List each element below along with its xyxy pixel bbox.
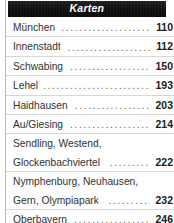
toc-entry[interactable]: München.................................… <box>6 18 174 37</box>
toc-leader-dots: ........................ <box>110 156 150 168</box>
table-of-contents-list: München.................................… <box>6 18 174 223</box>
toc-page-number: 203 <box>153 96 173 114</box>
toc-entry-line: Glockenbachviertel......................… <box>6 153 174 171</box>
toc-page-number: 150 <box>153 57 173 75</box>
toc-entry[interactable]: Innenstadt..............................… <box>6 37 174 56</box>
toc-entry[interactable]: Sendling, Westend,Glockenbachviertel....… <box>6 134 174 172</box>
toc-page-number: 232 <box>153 191 173 209</box>
toc-entry-label: Nymphenburg, Neuhausen, <box>13 172 138 190</box>
panel-header: Karten <box>8 1 166 17</box>
toc-entry-label: Glockenbachviertel <box>13 153 100 171</box>
toc-page-number: 193 <box>153 76 173 94</box>
toc-entry-label: München <box>13 18 55 36</box>
toc-page-number: 214 <box>153 115 173 133</box>
toc-entry[interactable]: Lehel...................................… <box>6 76 174 95</box>
toc-page-number: 246 <box>153 210 173 223</box>
toc-entry-label: Haidhausen <box>13 96 68 114</box>
toc-page-number: 110 <box>153 18 173 36</box>
toc-entry[interactable]: Au/Giesing..............................… <box>6 115 174 134</box>
toc-entry[interactable]: Schwabing...............................… <box>6 57 174 76</box>
toc-entry-label: Oberbayern <box>13 210 67 223</box>
table-of-contents-panel: Karten München..........................… <box>0 0 174 223</box>
toc-entry[interactable]: Nymphenburg, Neuhausen,Gern, Olympiapark… <box>6 172 174 210</box>
toc-entry[interactable]: Haidhausen..............................… <box>6 96 174 115</box>
toc-leader-dots: ..................................... <box>70 118 150 130</box>
toc-page-number: 112 <box>153 37 173 55</box>
toc-entry-line: Au/Giesing..............................… <box>6 115 174 133</box>
toc-entry-label: Au/Giesing <box>13 115 63 133</box>
toc-entry[interactable]: Oberbayern..............................… <box>6 210 174 223</box>
toc-leader-dots: .................................... <box>75 99 150 111</box>
toc-leader-dots: ...................................... <box>70 60 150 72</box>
toc-entry-label: Sendling, Westend, <box>13 134 102 152</box>
toc-entry-label: Innenstadt <box>13 37 61 55</box>
toc-entry-line: Innenstadt..............................… <box>6 37 174 55</box>
toc-leader-dots: ..................................... <box>74 213 150 223</box>
toc-entry-label: Schwabing <box>13 57 63 75</box>
toc-entry-line: Nymphenburg, Neuhausen, <box>6 172 174 190</box>
toc-entry-label: Lehel <box>13 76 38 94</box>
toc-entry-line: Sendling, Westend, <box>6 134 174 152</box>
toc-entry-line: München.................................… <box>6 18 174 36</box>
toc-entry-line: Oberbayern..............................… <box>6 210 174 223</box>
toc-leader-dots: ......................... <box>108 194 150 206</box>
panel-header-title: Karten <box>70 3 105 15</box>
toc-leader-dots: .................................... <box>61 21 150 33</box>
toc-entry-line: Haidhausen..............................… <box>6 96 174 114</box>
toc-entry-line: Schwabing...............................… <box>6 57 174 75</box>
toc-entry-line: Gern, Olympiapark.......................… <box>6 191 174 209</box>
toc-entry-label: Gern, Olympiapark <box>13 191 99 209</box>
toc-entry-line: Lehel...................................… <box>6 76 174 94</box>
toc-page-number: 222 <box>153 153 173 171</box>
toc-leader-dots: ........................................… <box>43 79 150 91</box>
toc-leader-dots: ........................................ <box>67 41 150 53</box>
